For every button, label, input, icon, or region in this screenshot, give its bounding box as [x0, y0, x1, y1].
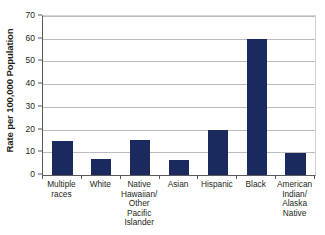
x-tick-label: White [81, 180, 120, 228]
x-tick-label: Black [236, 180, 275, 228]
x-tick-mark [81, 175, 82, 179]
bar [52, 141, 72, 175]
x-tick-mark [236, 175, 237, 179]
x-tick-mark [314, 175, 315, 179]
y-tick-label: 30 [26, 101, 35, 111]
x-tick-label: Hispanic [197, 180, 236, 228]
bar-slot [160, 16, 199, 175]
y-axis-title: Rate per 100,000 Population [0, 0, 18, 180]
bar-slot [43, 16, 82, 175]
bar [130, 140, 150, 175]
x-tick-label: American Indian/ Alaska Native [275, 180, 314, 228]
bar [169, 160, 189, 175]
bar-slot [276, 16, 315, 175]
y-axis-title-text: Rate per 100,000 Population [4, 28, 15, 152]
x-axis-tick-labels: Multiple racesWhiteNative Hawaiian/ Othe… [42, 180, 314, 228]
x-tick-mark [120, 175, 121, 179]
y-tick-label: 40 [26, 78, 35, 88]
y-tick-label: 50 [26, 55, 35, 65]
y-tick-label: 70 [26, 10, 35, 20]
x-tick-label: Asian [159, 180, 198, 228]
x-tick-mark [197, 175, 198, 179]
y-tick-label: 10 [26, 146, 35, 156]
x-tick-mark [275, 175, 276, 179]
bar [285, 153, 305, 175]
bar-slot [121, 16, 160, 175]
x-tick-mark [42, 175, 43, 179]
x-tick-mark [159, 175, 160, 179]
y-tick-label: 0 [30, 169, 35, 179]
plot-area [42, 15, 316, 176]
bar-chart-figure: Rate per 100,000 Population 706050403020… [0, 0, 325, 235]
bar-series [43, 16, 315, 175]
bar-slot [198, 16, 237, 175]
bar [247, 39, 267, 175]
x-tick-label: Native Hawaiian/ Other Pacific Islander [120, 180, 159, 228]
y-tick-label: 60 [26, 33, 35, 43]
bar-slot [82, 16, 121, 175]
x-tick-label: Multiple races [42, 180, 81, 228]
y-axis-tick-labels: 706050403020100 [18, 0, 38, 180]
bar [91, 159, 111, 175]
bar-slot [237, 16, 276, 175]
y-tick-label: 20 [26, 124, 35, 134]
bar [208, 130, 228, 175]
